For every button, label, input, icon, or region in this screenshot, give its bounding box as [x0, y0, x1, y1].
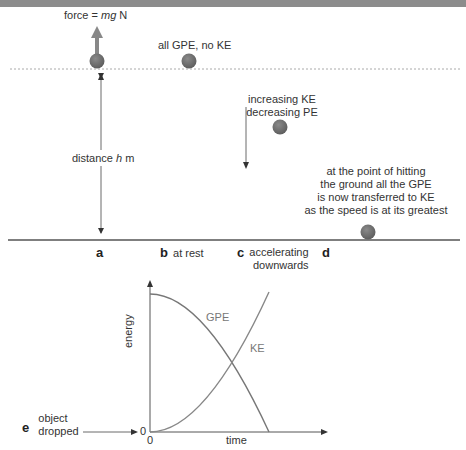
force-label: force = mg N	[64, 9, 127, 22]
ball-top-label: all GPE, no KE	[158, 39, 231, 52]
ball-d	[361, 225, 376, 240]
stage-a: a	[96, 246, 103, 260]
gpe-series-label: GPE	[206, 311, 229, 324]
y-axis-label: energy	[122, 314, 135, 348]
stage-b: b at rest	[160, 246, 204, 260]
falling-label: increasing KE decreasing PE	[246, 93, 318, 119]
distance-label: distance h m	[70, 152, 136, 165]
x-axis-label: time	[226, 434, 247, 447]
ground-label: at the point of hitting the ground all t…	[296, 165, 456, 217]
diagram-canvas	[0, 0, 466, 450]
energy-time-graph	[83, 280, 328, 435]
ke-series-label: KE	[250, 342, 265, 355]
y-zero-label: 0	[140, 425, 146, 438]
stage-e: e object dropped	[22, 412, 79, 438]
force-arrow-icon	[91, 26, 103, 56]
stage-c: c accelerating downwards	[237, 246, 309, 272]
ball-b	[182, 54, 197, 69]
x-zero-label: 0	[147, 434, 153, 447]
ball-c	[273, 120, 288, 135]
ball-a	[90, 54, 105, 69]
stage-d: d	[322, 246, 330, 260]
